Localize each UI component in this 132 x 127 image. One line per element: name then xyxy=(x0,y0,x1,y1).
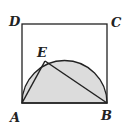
label-d: D xyxy=(8,14,21,29)
semicircle-region xyxy=(22,61,107,104)
label-c: C xyxy=(111,15,122,30)
geometry-figure: D C E A B xyxy=(0,0,132,127)
label-b: B xyxy=(100,108,112,123)
label-e: E xyxy=(36,45,48,60)
label-a: A xyxy=(8,110,20,125)
